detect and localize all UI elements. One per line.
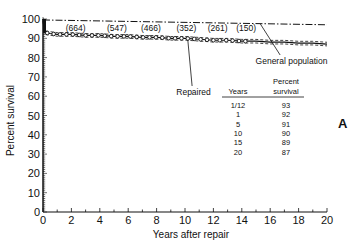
repaired-pointer bbox=[188, 40, 192, 86]
y-tick-label: 30 bbox=[28, 148, 40, 160]
data-marker bbox=[84, 34, 88, 38]
data-marker bbox=[205, 38, 209, 42]
data-marker bbox=[90, 34, 94, 38]
data-marker bbox=[224, 38, 228, 42]
table-header: Years bbox=[229, 87, 248, 96]
x-tick-label: 6 bbox=[125, 214, 131, 226]
table-cell-years: 1 bbox=[236, 110, 240, 119]
data-marker bbox=[116, 35, 120, 39]
data-marker bbox=[58, 33, 62, 37]
x-tick-label: 10 bbox=[179, 214, 191, 226]
y-tick-label: 40 bbox=[28, 129, 40, 141]
at-risk-count: (547) bbox=[107, 23, 127, 33]
data-marker bbox=[97, 34, 101, 38]
y-tick-label: 10 bbox=[28, 187, 40, 199]
data-marker bbox=[167, 36, 171, 40]
survival-chart: 010203040506070809010002468101214161820Y… bbox=[0, 0, 356, 245]
data-marker bbox=[65, 33, 69, 37]
data-marker bbox=[160, 36, 164, 40]
data-marker bbox=[103, 34, 107, 38]
table-cell-survival: 87 bbox=[282, 148, 290, 157]
data-marker bbox=[52, 32, 56, 36]
data-marker bbox=[122, 35, 126, 39]
data-marker bbox=[77, 33, 81, 37]
table-header: survival bbox=[273, 87, 299, 96]
x-tick-label: 18 bbox=[292, 214, 304, 226]
data-marker bbox=[71, 33, 75, 37]
x-axis-label: Years after repair bbox=[153, 229, 230, 240]
data-marker bbox=[186, 37, 190, 41]
table-cell-survival: 91 bbox=[282, 120, 290, 129]
at-risk-count: (150) bbox=[236, 23, 256, 33]
at-risk-count: (352) bbox=[176, 23, 196, 33]
table-cell-years: 20 bbox=[234, 148, 242, 157]
data-marker bbox=[129, 35, 133, 39]
table-cell-survival: 90 bbox=[282, 129, 290, 138]
data-marker bbox=[135, 35, 139, 39]
x-tick-label: 20 bbox=[321, 214, 333, 226]
y-tick-label: 70 bbox=[28, 71, 40, 83]
data-marker bbox=[218, 38, 222, 42]
data-marker bbox=[212, 38, 216, 42]
table-cell-years: 1/12 bbox=[231, 101, 246, 110]
data-marker bbox=[154, 36, 158, 40]
data-marker bbox=[231, 39, 235, 43]
data-marker bbox=[192, 37, 196, 41]
y-axis-label: Percent survival bbox=[5, 85, 16, 156]
general-population-pointer bbox=[260, 24, 280, 55]
y-tick-label: 80 bbox=[28, 52, 40, 64]
panel-label: A bbox=[338, 116, 347, 131]
data-marker bbox=[109, 34, 113, 38]
at-risk-count: (466) bbox=[141, 23, 161, 33]
x-tick-label: 14 bbox=[236, 214, 248, 226]
data-marker bbox=[141, 36, 145, 40]
data-marker bbox=[148, 36, 152, 40]
x-tick-label: 12 bbox=[207, 214, 219, 226]
table-cell-survival: 92 bbox=[282, 110, 290, 119]
x-tick-label: 0 bbox=[40, 214, 46, 226]
y-tick-label: 100 bbox=[22, 13, 40, 25]
x-tick-label: 16 bbox=[264, 214, 276, 226]
data-marker bbox=[180, 37, 184, 41]
data-marker bbox=[244, 39, 248, 43]
data-marker bbox=[199, 38, 203, 42]
y-tick-label: 90 bbox=[28, 32, 40, 44]
table-cell-years: 10 bbox=[234, 129, 242, 138]
data-marker bbox=[237, 39, 241, 43]
repaired-callout: Repaired bbox=[176, 87, 211, 97]
table-header: Percent bbox=[273, 77, 300, 86]
y-tick-label: 50 bbox=[28, 110, 40, 122]
data-marker bbox=[173, 37, 177, 41]
data-marker bbox=[45, 31, 49, 35]
table-cell-years: 5 bbox=[236, 120, 240, 129]
y-tick-label: 20 bbox=[28, 167, 40, 179]
table-cell-survival: 89 bbox=[282, 138, 290, 147]
y-tick-label: 60 bbox=[28, 90, 40, 102]
x-tick-label: 8 bbox=[154, 214, 160, 226]
table-cell-years: 15 bbox=[234, 138, 242, 147]
table-cell-survival: 93 bbox=[282, 101, 290, 110]
at-risk-count: (664) bbox=[66, 23, 86, 33]
x-tick-label: 2 bbox=[68, 214, 74, 226]
at-risk-count: (261) bbox=[208, 23, 228, 33]
x-tick-label: 4 bbox=[97, 214, 103, 226]
general-population-callout: General population bbox=[256, 56, 328, 66]
